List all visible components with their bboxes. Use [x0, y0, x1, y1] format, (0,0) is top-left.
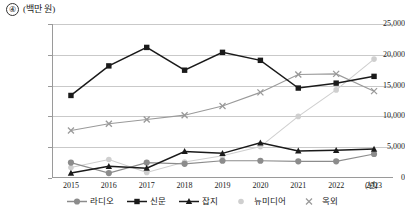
data-point-triangle — [257, 139, 263, 145]
legend-label: 옥외 — [322, 196, 338, 206]
data-point-square — [134, 198, 139, 203]
legend-item-뉴미디어[interactable]: 뉴미디어 — [231, 196, 286, 206]
legend-label: 뉴미디어 — [254, 196, 286, 206]
data-point-square — [68, 93, 73, 98]
data-point-square — [182, 68, 187, 73]
data-point-dot — [295, 114, 301, 120]
data-point-circle — [257, 158, 263, 164]
data-point-dot — [106, 157, 112, 163]
legend-item-신문[interactable]: 신문 — [127, 196, 166, 206]
series-옥외 — [68, 71, 377, 134]
series-line — [71, 74, 374, 131]
data-point-square — [258, 58, 263, 63]
data-point-circle — [74, 198, 80, 204]
data-point-x — [371, 88, 377, 94]
data-point-circle — [219, 158, 225, 164]
data-point-square — [220, 50, 225, 55]
data-point-square — [296, 85, 301, 90]
data-point-square — [333, 80, 338, 85]
chart-figure: ④ (백만 원) 05,00010,00015,00020,00025,000 … — [0, 0, 405, 214]
legend-marker-square-icon — [127, 197, 147, 206]
legend-marker-dot-icon — [231, 197, 251, 206]
data-point-circle — [295, 158, 301, 164]
series-신문 — [68, 45, 377, 98]
data-point-dot — [333, 87, 339, 93]
data-point-circle — [333, 158, 339, 164]
legend-marker-triangle-icon — [179, 197, 199, 206]
chart-legend: 라디오신문잡지뉴미디어옥외 — [0, 196, 405, 206]
legend-item-옥외[interactable]: 옥외 — [299, 196, 338, 206]
legend-marker-circle-icon — [67, 197, 87, 206]
legend-item-잡지[interactable]: 잡지 — [179, 196, 218, 206]
data-point-circle — [371, 151, 377, 157]
data-point-dot — [238, 198, 244, 204]
data-point-square — [371, 74, 376, 79]
data-point-square — [144, 45, 149, 50]
data-point-circle — [182, 161, 188, 167]
data-point-circle — [68, 160, 74, 166]
data-point-square — [106, 63, 111, 68]
series-layer — [0, 0, 405, 214]
legend-item-라디오[interactable]: 라디오 — [67, 196, 114, 206]
legend-label: 라디오 — [90, 196, 114, 206]
data-point-x — [306, 198, 312, 204]
data-point-x — [257, 89, 263, 95]
data-point-circle — [106, 170, 112, 176]
legend-marker-x-icon — [299, 197, 319, 206]
data-point-dot — [371, 56, 377, 62]
legend-label: 잡지 — [202, 196, 218, 206]
legend-label: 신문 — [150, 196, 166, 206]
